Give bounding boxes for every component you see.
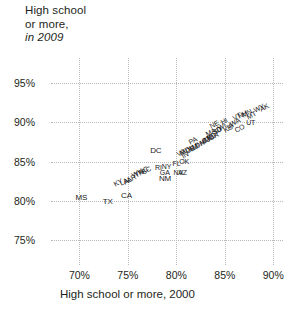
x-axis-title: High school or more, 2000 [60,288,195,300]
gridline-vertical [79,58,81,265]
y-axis-tick-label: 85% [14,156,56,168]
y-axis-tick-label: 75% [14,234,56,246]
data-point-label: NM [159,175,171,183]
x-axis-tick-label: 90% [256,269,290,281]
data-point-label: TX [103,198,113,206]
plot-area: 75%80%85%90%95%70%75%80%85%90%MSTXCAKYLA… [60,67,283,256]
data-point-label: CA [121,192,132,200]
y-axis-title-line1: High school [25,4,86,16]
gridline-vertical [225,58,227,265]
data-point-label: OK [179,158,189,165]
x-axis-tick-label: 85% [208,269,242,281]
x-axis-tick-label: 70% [62,269,96,281]
data-point-label: NY [162,163,172,170]
y-axis-title-line3: in 2009 [25,31,63,43]
y-axis-title: High schoolor more,in 2009 [25,4,86,45]
scatter-chart: High schoolor more,in 2009 75%80%85%90%9… [0,0,292,314]
data-point-label: RI [155,164,162,171]
data-point-label: DC [150,147,161,155]
y-axis-tick-label: 80% [14,195,56,207]
y-axis-title-line2: or more, [25,18,69,30]
gridline-vertical [128,58,130,265]
x-axis-tick-label: 80% [159,269,193,281]
data-point-label: MS [76,194,88,202]
gridline-vertical [273,58,275,265]
y-axis-tick-label: 90% [14,116,56,128]
gridline-horizontal [51,83,283,85]
y-axis-tick-label: 95% [14,77,56,89]
data-point-label: NV [173,169,183,176]
gridline-horizontal [51,240,283,242]
x-axis-tick-label: 75% [111,269,145,281]
